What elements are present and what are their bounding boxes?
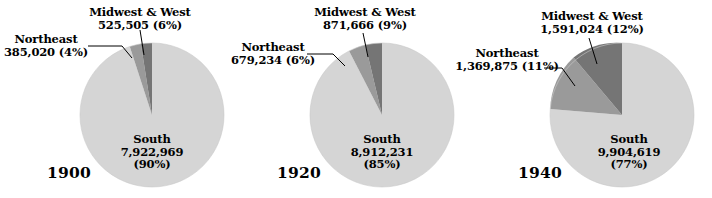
label-midwest-1900: Midwest & West 525,505 (6%) [60, 6, 220, 31]
label-northeast-value-1900: 385,020 (4%) [0, 46, 96, 59]
label-south-name-1900: South [102, 133, 202, 146]
label-south-percent-1920: (85%) [332, 158, 432, 171]
label-northeast-name-1920: Northeast [223, 41, 323, 54]
label-northeast-value-1920: 679,234 (6%) [223, 54, 323, 67]
pie-panel-1920: Midwest & West 871,666 (9%) Northeast 67… [237, 0, 474, 198]
label-midwest-value-1900: 525,505 (6%) [60, 19, 220, 32]
label-midwest-name-1940: Midwest & West [502, 10, 682, 23]
label-midwest-value-1920: 871,666 (9%) [285, 19, 445, 32]
label-midwest-1920: Midwest & West 871,666 (9%) [285, 6, 445, 31]
label-midwest-name-1900: Midwest & West [60, 6, 220, 19]
label-midwest-name-1920: Midwest & West [285, 6, 445, 19]
label-northeast-value-1940: 1,369,875 (11%) [452, 60, 562, 73]
panel-year-1900: 1900 [47, 163, 91, 182]
panel-year-1940: 1940 [518, 163, 562, 182]
label-midwest-1940: Midwest & West 1,591,024 (12%) [502, 10, 682, 35]
label-south-1940: South 9,904,619 (77%) [579, 133, 679, 171]
label-south-percent-1900: (90%) [102, 158, 202, 171]
label-midwest-value-1940: 1,591,024 (12%) [502, 23, 682, 36]
pie-panel-1900: Midwest & West 525,505 (6%) Northeast 38… [0, 0, 237, 198]
panel-year-1920: 1920 [277, 163, 321, 182]
label-northeast-name-1900: Northeast [0, 33, 96, 46]
label-south-1920: South 8,912,231 (85%) [332, 133, 432, 171]
label-south-percent-1940: (77%) [579, 158, 679, 171]
label-south-name-1920: South [332, 133, 432, 146]
label-northeast-1900: Northeast 385,020 (4%) [0, 33, 96, 58]
pie-chart-figure: Midwest & West 525,505 (6%) Northeast 38… [0, 0, 712, 198]
label-northeast-1940: Northeast 1,369,875 (11%) [452, 47, 562, 72]
pie-panel-1940: Midwest & West 1,591,024 (12%) Northeast… [474, 0, 711, 198]
label-south-name-1940: South [579, 133, 679, 146]
label-northeast-1920: Northeast 679,234 (6%) [223, 41, 323, 66]
label-northeast-name-1940: Northeast [452, 47, 562, 60]
label-south-1900: South 7,922,969 (90%) [102, 133, 202, 171]
